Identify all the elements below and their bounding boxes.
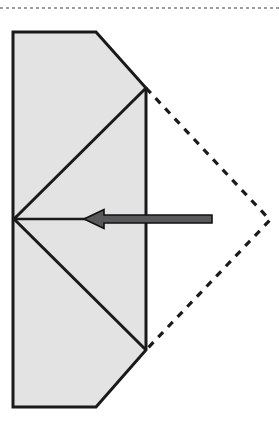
- fold-diagram-canvas: [0, 0, 279, 429]
